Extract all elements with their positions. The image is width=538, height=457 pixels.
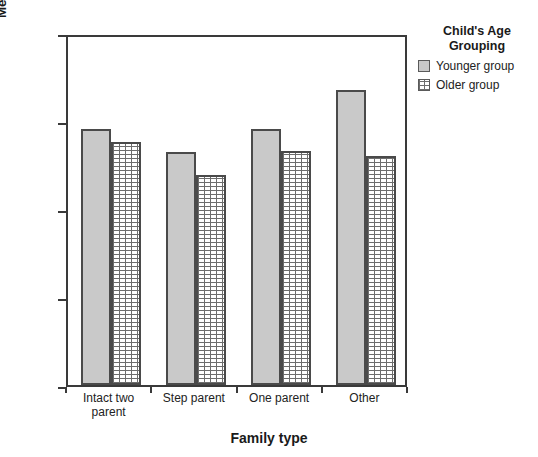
x-axis-category-label-line1: Intact two <box>66 391 151 405</box>
legend-item-younger-group[interactable]: Younger group <box>418 59 536 73</box>
legend-swatch-icon-older <box>418 79 430 91</box>
y-axis-tick-mark <box>58 211 66 213</box>
plot-area <box>66 35 407 387</box>
legend-label-younger: Younger group <box>436 59 514 73</box>
legend-title-line1: Child's Age <box>418 24 536 39</box>
x-axis-category-label-line1: Step parent <box>151 391 236 405</box>
y-axis-title: Mean Piers-Harris Self Esteem total scor… <box>0 0 9 18</box>
bars-layer <box>68 37 405 385</box>
y-axis-tick-mark <box>58 35 66 37</box>
x-axis-category-label: Intact twoparent <box>66 391 151 419</box>
bar-older-0[interactable] <box>111 142 141 385</box>
x-axis-category-label: Other <box>322 391 407 405</box>
legend: Child's Age Grouping Younger group Older… <box>418 24 536 92</box>
x-axis-labels: Intact twoparentStep parentOne parentOth… <box>66 391 407 429</box>
legend-label-older: Older group <box>436 78 499 92</box>
bar-older-1[interactable] <box>196 175 226 385</box>
bar-younger-1[interactable] <box>166 152 196 385</box>
y-axis-tick-mark <box>58 123 66 125</box>
x-axis-category-label: One parent <box>237 391 322 405</box>
bar-younger-0[interactable] <box>81 129 111 385</box>
legend-item-older-group[interactable]: Older group <box>418 78 536 92</box>
legend-title: Child's Age Grouping <box>418 24 536 54</box>
x-axis-category-label-line2: parent <box>66 405 151 419</box>
x-axis-category-label-line1: Other <box>322 391 407 405</box>
bar-younger-3[interactable] <box>336 90 366 385</box>
bar-younger-2[interactable] <box>251 129 281 385</box>
x-axis-category-label: Step parent <box>151 391 236 405</box>
y-axis-tick-mark <box>58 299 66 301</box>
bar-older-2[interactable] <box>281 151 311 385</box>
legend-title-line2: Grouping <box>418 39 536 54</box>
bar-older-3[interactable] <box>366 156 396 385</box>
x-axis-category-label-line1: One parent <box>237 391 322 405</box>
x-axis-title: Family type <box>0 430 538 446</box>
legend-swatch-icon-younger <box>418 60 430 72</box>
